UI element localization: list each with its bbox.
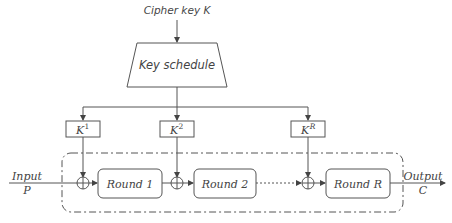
round-2-label: Round 2 [201, 178, 249, 191]
block-cipher-diagram: Cipher key K Key schedule K 1 K 2 K R In… [0, 0, 452, 223]
key-distribution-line [83, 107, 308, 120]
cipher-key-label: Cipher key K [144, 4, 212, 16]
key-arrow-r [305, 115, 311, 121]
round-r-label: Round R [333, 178, 382, 191]
round-key-2: K 2 [160, 121, 194, 137]
svg-text:K: K [300, 124, 310, 137]
output-symbol: C [419, 184, 428, 197]
xor-icon-1 [77, 177, 89, 189]
round-key-1: K 1 [66, 121, 100, 137]
key-arrow-1 [80, 115, 86, 121]
svg-text:K: K [169, 124, 179, 137]
output-label: Output [403, 170, 443, 183]
svg-text:2: 2 [179, 122, 184, 131]
xor-icon-2 [171, 177, 183, 189]
key-schedule-label: Key schedule [139, 58, 215, 72]
input-label: Input [11, 170, 43, 183]
xor-icon-r [302, 177, 314, 189]
svg-text:R: R [309, 122, 316, 131]
round-1-label: Round 1 [106, 178, 154, 191]
svg-text:K: K [75, 124, 85, 137]
svg-text:1: 1 [85, 122, 90, 131]
round-key-r: K R [291, 121, 325, 137]
input-symbol: P [22, 184, 31, 197]
